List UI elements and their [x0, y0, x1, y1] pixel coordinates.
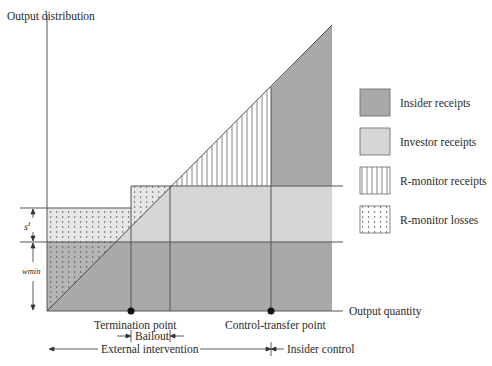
legend-label-insider: Insider receipts — [400, 98, 471, 110]
legend-swatch-r-monitor-receipts — [360, 167, 390, 194]
legend-swatch-investor — [360, 128, 390, 155]
s-i-label: sI — [24, 221, 30, 232]
legend-swatch-r-monitor-losses — [360, 206, 390, 233]
insider-receipts-top-region — [271, 25, 332, 186]
legend-label-r-monitor-receipts: R-monitor receipts — [400, 176, 487, 188]
control-transfer-point-marker — [268, 308, 275, 315]
x-axis-label: Output quantity — [349, 306, 422, 318]
bailout-label: Bailout — [135, 331, 169, 343]
y-axis-label: Output distribution — [7, 11, 95, 23]
control-transfer-point-label: Control-transfer point — [225, 320, 326, 332]
legend-label-investor: Investor receipts — [400, 137, 476, 149]
legend-swatch-insider — [360, 89, 390, 116]
termination-point-marker — [128, 308, 135, 315]
legend-label-r-monitor-losses: R-monitor losses — [400, 215, 478, 227]
r-monitor-losses-upper — [47, 208, 131, 242]
wmin-label: wmin — [22, 267, 40, 276]
external-intervention-label: External intervention — [101, 344, 198, 356]
insider-control-label: Insider control — [287, 344, 354, 356]
